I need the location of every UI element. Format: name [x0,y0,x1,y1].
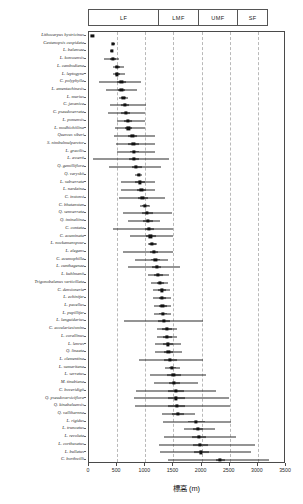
table-row[interactable] [89,217,284,225]
table-row[interactable] [89,371,284,379]
table-row[interactable] [89,40,284,48]
table-row[interactable] [89,240,284,248]
table-row[interactable] [89,140,284,148]
zone-band-lmf[interactable]: LMF [158,9,197,26]
table-row[interactable] [89,225,284,233]
species-label: L. murius [67,93,84,101]
y-tick [84,197,86,198]
y-tick [84,390,86,391]
table-row[interactable] [89,32,284,40]
table-row[interactable] [89,279,284,287]
table-row[interactable] [89,71,284,79]
species-label: Q. pseudoversiciflora [45,394,84,402]
table-row[interactable] [89,402,284,410]
species-label: L. cunthagenae [56,262,84,270]
table-row[interactable] [89,132,284,140]
table-row[interactable] [89,317,284,325]
table-row[interactable] [89,94,284,102]
median-marker [155,266,158,269]
species-label: Q. iminaliina [60,216,84,224]
y-tick [84,313,86,314]
table-row[interactable] [89,325,284,333]
species-label: C. acumophilla [56,255,84,263]
table-row[interactable] [89,148,284,156]
median-marker [126,119,129,122]
table-row[interactable] [89,63,284,71]
table-row[interactable] [89,171,284,179]
table-row[interactable] [89,387,284,395]
x-axis: 0500100015002000250030003500 [88,463,285,464]
median-marker [161,312,164,315]
table-row[interactable] [89,202,284,210]
species-label: Castanopsis cuspidata [43,39,84,47]
table-row[interactable] [89,348,284,356]
zone-band-lf[interactable]: LF [88,9,158,26]
table-row[interactable] [89,449,284,457]
y-tick [84,259,86,260]
table-row[interactable] [89,109,284,117]
table-row[interactable] [89,302,284,310]
table-row[interactable] [89,179,284,187]
table-row[interactable] [89,310,284,318]
table-row[interactable] [89,125,284,133]
table-row[interactable] [89,418,284,426]
table-row[interactable] [89,263,284,271]
table-row[interactable] [89,101,284,109]
median-marker [123,104,126,107]
table-row[interactable] [89,294,284,302]
table-row[interactable] [89,441,284,449]
x-tick [88,463,89,466]
table-row[interactable] [89,356,284,364]
median-marker [120,81,123,84]
species-label: L. subserrata [60,178,84,186]
median-marker [132,158,135,161]
y-tick [84,444,86,445]
y-tick [84,228,86,229]
table-row[interactable] [89,78,284,86]
table-row[interactable] [89,379,284,387]
table-row[interactable] [89,186,284,194]
table-row[interactable] [89,47,284,55]
table-row[interactable] [89,209,284,217]
table-row[interactable] [89,410,284,418]
table-row[interactable] [89,117,284,125]
table-row[interactable] [89,233,284,241]
table-row[interactable] [89,287,284,295]
y-tick [84,189,86,190]
species-label: L. modhichiilina [54,124,84,132]
zone-band-umf[interactable]: UMF [198,9,237,26]
table-row[interactable] [89,194,284,202]
table-row[interactable] [89,433,284,441]
species-label: L. rigidus [66,417,84,425]
x-tick [229,463,230,466]
table-row[interactable] [89,333,284,341]
table-row[interactable] [89,86,284,94]
table-row[interactable] [89,256,284,264]
table-row[interactable] [89,341,284,349]
table-row[interactable] [89,155,284,163]
y-tick [84,289,86,290]
zone-band-sf[interactable]: SF [237,9,268,26]
table-row[interactable] [89,271,284,279]
table-row[interactable] [89,248,284,256]
species-label: C. borthwilli [61,455,84,463]
species-label: Q. semserrata [59,208,85,216]
table-row[interactable] [89,425,284,433]
table-row[interactable] [89,55,284,63]
median-marker [116,73,119,76]
x-tick [144,463,145,466]
x-axis-title: 標高 (m) [88,482,285,493]
x-tick-label: 3500 [279,467,291,473]
median-marker [146,219,149,222]
y-tick [84,50,86,51]
x-tick-label: 0 [87,467,90,473]
species-label: C. bhutanstan [59,201,84,209]
chart-root: LFLMFUMFSF Lithocarpus hystricinusCastan… [0,0,303,504]
table-row[interactable] [89,395,284,403]
table-row[interactable] [89,364,284,372]
species-label: C. acuminata [60,232,84,240]
x-tick-label: 2000 [195,467,207,473]
species-label: L. nockamanspour [51,239,85,247]
median-marker [165,327,168,330]
table-row[interactable] [89,163,284,171]
